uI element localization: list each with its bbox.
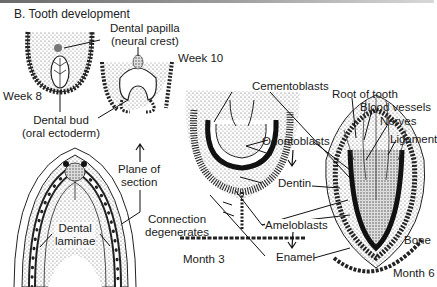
label-ligament: Ligament [390, 133, 437, 146]
label-cementoblasts: Cementoblasts [252, 80, 329, 93]
label-plane-of-section: Plane of section [118, 163, 160, 189]
label-blood-vessels: Blood vessels [360, 101, 431, 114]
week8-bud-drawing [28, 32, 92, 92]
label-enamel: Enamel [276, 251, 315, 264]
week10-bell-drawing [102, 55, 172, 112]
label-month6: Month 6 [393, 267, 435, 280]
label-root-of-tooth: Root of tooth [332, 88, 398, 101]
label-dental-bud: Dental bud (oral ectoderm) [22, 114, 100, 140]
label-ameloblasts: Ameloblasts [265, 219, 328, 232]
label-week8: Week 8 [3, 90, 42, 103]
label-nerves: Nerves [380, 115, 416, 128]
label-bone: Bone [404, 234, 431, 247]
label-dental-laminae: Dental laminae [55, 222, 95, 248]
label-connection-degenerates: Connection degenerates [145, 213, 209, 239]
label-dental-papilla: Dental papilla (neural crest) [110, 22, 180, 48]
label-dentin: Dentin [278, 177, 311, 190]
label-odontoblasts: Odontoblasts [262, 135, 330, 148]
label-week10: Week 10 [178, 52, 223, 65]
label-month3: Month 3 [183, 253, 225, 266]
